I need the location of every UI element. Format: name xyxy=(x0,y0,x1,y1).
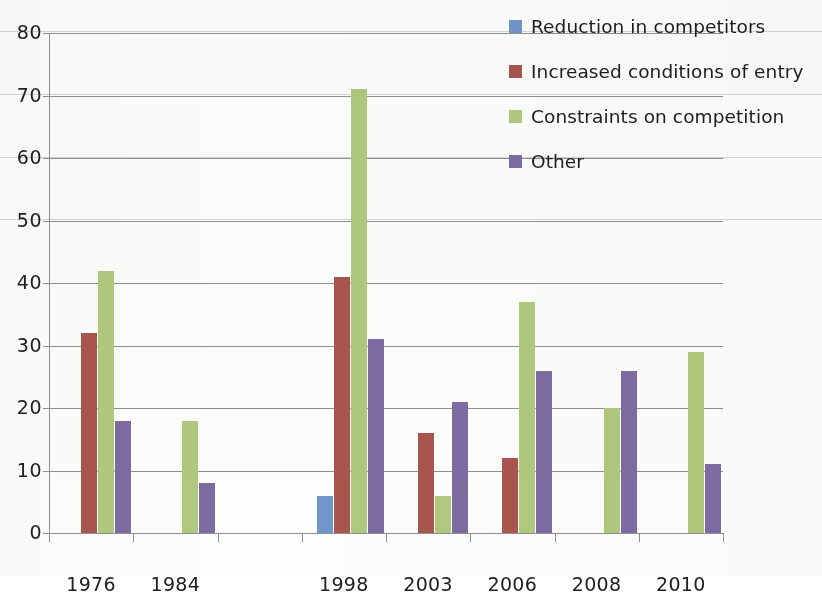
bar xyxy=(604,408,620,533)
bar-group xyxy=(133,33,217,533)
x-tick-mark xyxy=(218,533,219,542)
bar-group-bars xyxy=(233,33,301,533)
chart-legend: Reduction in competitorsIncreased condit… xyxy=(509,4,822,184)
x-tick-mark xyxy=(49,533,50,542)
bar xyxy=(81,333,97,533)
bar-group-bars xyxy=(64,33,132,533)
x-tick-mark xyxy=(470,533,471,542)
bar xyxy=(621,371,637,534)
y-tick-label: 0 xyxy=(2,523,42,542)
x-tick-mark xyxy=(723,533,724,542)
y-tick-label: 30 xyxy=(2,336,42,355)
bar xyxy=(351,89,367,533)
y-tick-label: 40 xyxy=(2,273,42,292)
y-tick-label: 20 xyxy=(2,398,42,417)
x-tick-label: 2010 xyxy=(631,573,731,595)
bar-group-bars xyxy=(317,33,385,533)
bar xyxy=(368,339,384,533)
bar-group-bars xyxy=(401,33,469,533)
bar-group xyxy=(218,33,302,533)
bar xyxy=(519,302,535,533)
x-tick-mark xyxy=(133,533,134,542)
bar xyxy=(199,483,215,533)
y-tick-label: 70 xyxy=(2,86,42,105)
bar xyxy=(317,496,333,534)
bar xyxy=(705,464,721,533)
bar xyxy=(502,458,518,533)
legend-swatch-icon xyxy=(509,20,522,33)
y-tick-label: 50 xyxy=(2,211,42,230)
bar xyxy=(688,352,704,533)
legend-label: Reduction in competitors xyxy=(531,17,765,37)
bar-group xyxy=(302,33,386,533)
bar xyxy=(435,496,451,534)
y-tick-label: 80 xyxy=(2,23,42,42)
bar xyxy=(115,421,131,534)
bar-group xyxy=(49,33,133,533)
legend-swatch-icon xyxy=(509,65,522,78)
bar xyxy=(452,402,468,533)
y-tick-label: 60 xyxy=(2,148,42,167)
y-tick-label: 10 xyxy=(2,461,42,480)
legend-label: Constraints on competition xyxy=(531,107,784,127)
legend-label: Increased conditions of entry xyxy=(531,62,804,82)
legend-swatch-icon xyxy=(509,155,522,168)
legend-item[interactable]: Increased conditions of entry xyxy=(509,49,822,94)
legend-item[interactable]: Reduction in competitors xyxy=(509,4,822,49)
x-tick-mark xyxy=(639,533,640,542)
bar xyxy=(418,433,434,533)
y-axis-labels: 01020304050607080 xyxy=(0,0,42,576)
bar-group xyxy=(386,33,470,533)
x-tick-mark xyxy=(555,533,556,542)
legend-item[interactable]: Constraints on competition xyxy=(509,94,822,139)
bar xyxy=(334,277,350,533)
bar xyxy=(98,271,114,534)
bar-group-bars xyxy=(148,33,216,533)
bar xyxy=(536,371,552,534)
x-tick-mark xyxy=(302,533,303,542)
x-tick-mark xyxy=(386,533,387,542)
bar xyxy=(182,421,198,534)
legend-item[interactable]: Other xyxy=(509,139,822,184)
x-tick-label: 1984 xyxy=(125,573,225,595)
legend-label: Other xyxy=(531,152,584,172)
legend-swatch-icon xyxy=(509,110,522,123)
